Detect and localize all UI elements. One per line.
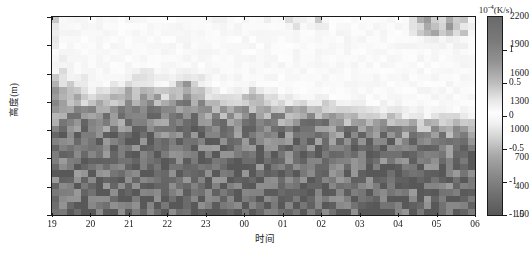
x-tick-top — [398, 16, 399, 20]
chart-figure: 高度(m) 10040070010001300160019002200 1920… — [0, 0, 529, 259]
x-tick-label: 19 — [39, 219, 65, 229]
x-tick — [167, 213, 168, 217]
x-tick-label: 06 — [462, 219, 488, 229]
x-tick-top — [437, 16, 438, 20]
colorbar-tick — [503, 50, 507, 51]
colorbar-gradient — [488, 17, 502, 215]
x-tick-top — [90, 16, 91, 20]
colorbar-tick — [503, 215, 507, 216]
colorbar-tick-label: -1.5 — [509, 210, 524, 220]
x-tick — [321, 213, 322, 217]
x-tick-label: 22 — [154, 219, 180, 229]
x-tick-top — [167, 16, 168, 20]
x-tick-top — [475, 16, 476, 20]
x-axis-title: 时间 — [0, 234, 529, 244]
colorbar-bar — [487, 16, 503, 216]
x-tick — [360, 213, 361, 217]
x-tick-label: 02 — [308, 219, 334, 229]
x-tick-top — [321, 16, 322, 20]
x-tick-top — [283, 16, 284, 20]
colorbar: 10.50-0.5-1-1.5 — [487, 16, 529, 216]
x-tick-top — [244, 16, 245, 20]
x-tick — [52, 213, 53, 217]
heatmap-canvas — [52, 17, 475, 215]
heatmap-plot-area — [51, 16, 476, 216]
x-tick-label: 05 — [424, 219, 450, 229]
x-tick — [283, 213, 284, 217]
x-tick-top — [52, 16, 53, 20]
x-tick-label: 21 — [116, 219, 142, 229]
colorbar-tick-label: -0.5 — [509, 144, 524, 154]
x-tick-label: 00 — [231, 219, 257, 229]
colorbar-tick-label: 0.5 — [509, 78, 521, 88]
colorbar-tick — [503, 149, 507, 150]
x-tick — [90, 213, 91, 217]
colorbar-tick-label: 1 — [509, 45, 514, 55]
x-tick — [244, 213, 245, 217]
x-tick — [437, 213, 438, 217]
x-tick-top — [360, 16, 361, 20]
colorbar-tick — [503, 116, 507, 117]
x-tick — [206, 213, 207, 217]
x-tick-label: 20 — [77, 219, 103, 229]
x-tick — [398, 213, 399, 217]
colorbar-tick-label: 0 — [509, 111, 514, 121]
x-tick-label: 03 — [347, 219, 373, 229]
x-tick-label: 04 — [385, 219, 411, 229]
colorbar-unit-label: 10-4(K/s) — [462, 2, 529, 15]
colorbar-tick-label: -1 — [509, 177, 517, 187]
x-tick-label: 23 — [193, 219, 219, 229]
x-tick — [475, 213, 476, 217]
x-tick-top — [206, 16, 207, 20]
x-tick-top — [129, 16, 130, 20]
x-tick-label: 01 — [270, 219, 296, 229]
x-tick — [129, 213, 130, 217]
colorbar-tick — [503, 83, 507, 84]
colorbar-tick — [503, 182, 507, 183]
y-axis-title: 高度(m) — [9, 66, 19, 134]
